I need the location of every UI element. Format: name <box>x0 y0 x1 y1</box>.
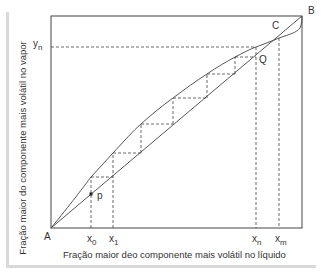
y-axis-label: Fração maior do componente mais volátil … <box>17 41 28 254</box>
x-tick-x0: x0 <box>87 234 96 247</box>
point-label-c: C <box>272 21 279 31</box>
point-label-b: B <box>308 6 315 16</box>
point-p-marker <box>90 193 93 196</box>
point-label-p: p <box>97 191 103 201</box>
y-tick-yn: yn <box>33 39 42 52</box>
x-tick-xn: xn <box>252 234 261 247</box>
x-tick-x1: x1 <box>109 234 118 247</box>
x-tick-xm: xm <box>275 234 287 247</box>
x-axis-label: Fração maior deo componente mais volátil… <box>63 249 286 260</box>
point-label-q: Q <box>259 55 267 65</box>
point-label-a: A <box>44 232 51 242</box>
diagonal-line <box>51 16 302 228</box>
